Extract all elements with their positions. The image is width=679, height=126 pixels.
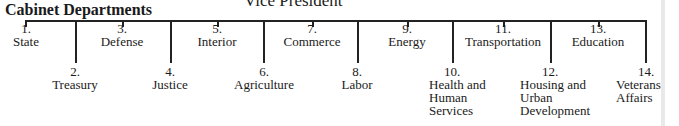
drop-health-human-services bbox=[452, 20, 454, 63]
dept-housing-urban-development: 12. Housing and Urban Development bbox=[520, 65, 604, 117]
dept-health-human-services: 10. Health and Human Services bbox=[429, 65, 501, 117]
drop-labor bbox=[357, 20, 359, 63]
dept-defense: 3. Defense bbox=[92, 22, 152, 48]
dept-transportation: 11. Transportation bbox=[456, 22, 550, 48]
dept-agriculture: 6. Agriculture bbox=[224, 65, 304, 91]
drop-veterans-affairs bbox=[645, 20, 647, 63]
dept-energy: 9. Energy bbox=[377, 22, 437, 48]
cabinet-departments-title: Cabinet Departments bbox=[5, 1, 152, 19]
drop-treasury bbox=[75, 20, 77, 63]
dept-labor: 8. Labor bbox=[337, 65, 377, 91]
dept-justice: 4. Justice bbox=[145, 65, 195, 91]
dept-veterans-affairs: 14. Veterans' Affairs bbox=[616, 65, 676, 104]
dept-treasury: 2. Treasury bbox=[40, 65, 110, 91]
dept-interior: 5. Interior bbox=[187, 22, 247, 48]
dept-state: 1. State bbox=[0, 22, 52, 48]
page-edge-strip bbox=[661, 0, 665, 126]
dept-commerce: 7. Commerce bbox=[277, 22, 347, 48]
dept-education: 13. Education bbox=[563, 22, 633, 48]
drop-housing-urban-development bbox=[550, 20, 552, 63]
drop-agriculture bbox=[263, 20, 265, 63]
drop-justice bbox=[170, 20, 172, 63]
vice-president-label: Vice President bbox=[244, 0, 343, 11]
